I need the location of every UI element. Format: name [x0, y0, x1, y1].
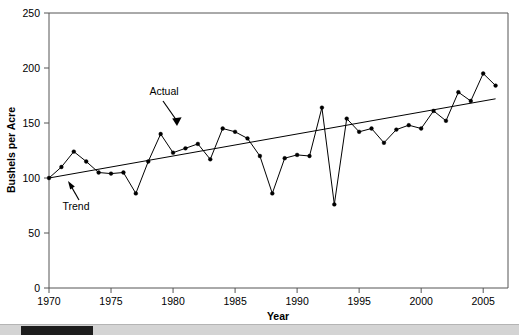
data-point-marker: [308, 154, 312, 158]
data-point-marker: [221, 127, 225, 131]
data-point-marker: [332, 203, 336, 207]
x-tick-label: 1975: [99, 295, 123, 307]
data-point-marker: [432, 109, 436, 113]
data-point-marker: [345, 117, 349, 121]
data-point-marker: [60, 165, 64, 169]
horizontal-scrollbar[interactable]: [0, 324, 519, 335]
data-point-marker: [295, 153, 299, 157]
x-axis-title: Year: [267, 310, 289, 322]
data-point-marker: [407, 123, 411, 127]
x-tick-label: 1970: [37, 295, 61, 307]
y-tick-label: 200: [22, 62, 40, 74]
data-point-marker: [47, 176, 51, 180]
x-tick-label: 2005: [472, 295, 496, 307]
annotation-trend: Trend: [62, 181, 89, 212]
trend-line: [49, 99, 496, 178]
data-point-marker: [171, 151, 175, 155]
y-tick-label: 0: [34, 282, 40, 294]
data-point-marker: [246, 137, 250, 141]
data-point-marker: [184, 146, 188, 150]
data-point-marker: [270, 192, 274, 196]
y-tick-label: 150: [22, 117, 40, 129]
annotation-actual-label: Actual: [149, 85, 178, 97]
data-point-marker: [469, 99, 473, 103]
data-point-marker: [72, 150, 76, 154]
actual-series-line: [49, 74, 496, 205]
annotation-trend-arrowhead: [68, 181, 75, 190]
y-tick-label: 50: [28, 227, 40, 239]
data-point-marker: [382, 141, 386, 145]
y-axis-ticks: 050100150200250: [22, 7, 49, 294]
y-tick-label: 100: [22, 172, 40, 184]
data-point-marker: [481, 72, 485, 76]
data-point-marker: [84, 160, 88, 164]
y-axis-title: Bushels per Acre: [5, 107, 17, 193]
x-tick-label: 1995: [347, 295, 371, 307]
x-tick-label: 1990: [285, 295, 309, 307]
data-point-marker: [196, 142, 200, 146]
data-point-marker: [258, 154, 262, 158]
x-axis-ticks: 19701975198019851990199520002005: [37, 288, 495, 307]
data-point-marker: [419, 127, 423, 131]
data-point-marker: [283, 156, 287, 160]
annotation-trend-label: Trend: [62, 200, 89, 212]
plot-border: [49, 13, 508, 288]
x-tick-label: 2000: [409, 295, 433, 307]
actual-series-markers: [47, 72, 497, 207]
plot-frame: [49, 13, 508, 288]
scrollbar-thumb[interactable]: [21, 326, 93, 335]
data-point-marker: [122, 171, 126, 175]
data-point-marker: [159, 132, 163, 136]
chart-container: 050100150200250 197019751980198519901995…: [0, 0, 519, 335]
data-point-marker: [208, 157, 212, 161]
data-point-marker: [456, 90, 460, 94]
data-point-marker: [370, 127, 374, 131]
annotation-actual: Actual: [149, 85, 181, 126]
annotation-actual-arrowhead: [172, 117, 181, 126]
data-point-marker: [394, 128, 398, 132]
data-point-marker: [494, 84, 498, 88]
data-point-marker: [320, 106, 324, 110]
annotation-actual-arrow: [163, 101, 177, 121]
line-chart: 050100150200250 197019751980198519901995…: [0, 0, 519, 322]
data-point-marker: [109, 172, 113, 176]
data-point-marker: [97, 171, 101, 175]
data-point-marker: [444, 119, 448, 123]
data-point-marker: [146, 160, 150, 164]
data-point-marker: [233, 130, 237, 134]
x-tick-label: 1980: [161, 295, 185, 307]
y-tick-label: 250: [22, 7, 40, 19]
x-tick-label: 1985: [223, 295, 247, 307]
data-point-marker: [134, 192, 138, 196]
data-point-marker: [357, 130, 361, 134]
